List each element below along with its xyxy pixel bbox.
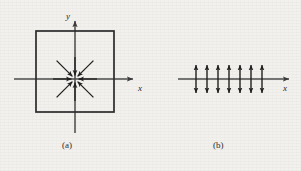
y-axis-label-a: y <box>66 11 70 21</box>
x-axis-label-a: x <box>138 83 142 93</box>
field-arrow-southeast <box>78 82 94 98</box>
panel-b <box>178 65 289 93</box>
panel-a-axes <box>14 21 133 133</box>
panel-caption-b: (b) <box>213 140 224 150</box>
figure-canvas <box>0 0 301 171</box>
panel-caption-a: (a) <box>62 140 72 150</box>
field-arrow-northwest <box>57 61 73 77</box>
figure-root: y x x (a) (b) <box>0 0 301 171</box>
field-arrow-northeast <box>78 61 94 77</box>
x-axis-label-b: x <box>283 83 287 93</box>
panel-a <box>14 21 133 133</box>
field-arrow-southwest <box>57 82 73 98</box>
